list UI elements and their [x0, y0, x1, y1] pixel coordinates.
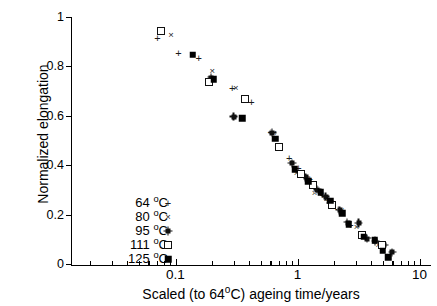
legend-marker: + — [160, 196, 176, 210]
marker-star-icon — [166, 229, 171, 234]
marker-filled-square-icon — [239, 115, 246, 122]
x-tick-label: 10 — [412, 268, 427, 282]
marker-plus-icon: + — [335, 205, 341, 213]
marker-star-icon — [323, 194, 328, 199]
marker-star-icon — [231, 114, 236, 119]
x-tick-minor — [371, 261, 372, 265]
marker-cross-icon: × — [271, 129, 277, 137]
x-tick-label: 1 — [294, 268, 302, 282]
x-tick-minor — [356, 261, 357, 265]
y-tick — [66, 17, 71, 18]
marker-star-icon — [209, 75, 214, 80]
marker-star-icon — [270, 130, 275, 135]
x-tick-minor — [261, 261, 262, 265]
marker-filled-square-icon — [360, 233, 367, 240]
y-tick-label: 0 — [57, 258, 64, 271]
marker-star-icon — [303, 175, 308, 180]
x-tick-minor — [292, 261, 293, 265]
marker-star-icon — [382, 243, 387, 248]
marker-plus-icon: + — [326, 196, 332, 204]
marker-star-icon — [356, 221, 361, 226]
x-tick-minor — [212, 261, 213, 265]
chart-legend: 64 oC+80 oC×95 oC111 oC125 oC — [88, 196, 168, 266]
marker-star-icon — [345, 220, 350, 225]
degree-symbol: o — [153, 194, 158, 204]
legend-marker — [160, 238, 176, 252]
marker-star-icon — [315, 187, 320, 192]
marker-plus-icon: + — [315, 185, 321, 193]
marker-open-square-icon — [275, 143, 283, 151]
marker-star-icon — [337, 208, 342, 213]
marker-plus-icon: + — [165, 199, 171, 207]
x-tick-minor — [334, 261, 335, 265]
y-tick — [66, 215, 71, 216]
legend-marker — [160, 252, 176, 266]
x-tick-minor — [414, 261, 415, 265]
y-tick — [66, 264, 71, 265]
marker-filled-square-icon — [327, 197, 334, 204]
marker-star-icon — [390, 250, 395, 255]
marker-filled-square-icon — [379, 248, 386, 255]
legend-marker: × — [160, 210, 176, 224]
y-axis-line — [71, 17, 72, 265]
marker-star-icon — [373, 239, 378, 244]
x-tick-minor — [383, 261, 384, 265]
x-tick-minor — [286, 261, 287, 265]
y-tick-label: 1 — [57, 11, 64, 24]
marker-plus-icon: + — [154, 34, 160, 42]
x-tick-label: 0.1 — [166, 268, 185, 282]
marker-cross-icon: × — [354, 223, 360, 231]
chart-figure: 00.20.40.60.81 0.1110 Normalized elongat… — [0, 0, 437, 306]
marker-filled-square-icon — [210, 76, 217, 83]
marker-cross-icon: × — [389, 247, 395, 255]
marker-cross-icon: × — [294, 169, 300, 177]
y-tick — [66, 116, 71, 117]
marker-star-icon — [289, 161, 294, 166]
marker-open-square-icon — [164, 241, 172, 249]
degree-symbol: o — [153, 222, 158, 232]
y-tick — [66, 165, 71, 166]
marker-filled-square-icon — [291, 166, 298, 173]
marker-open-square-icon — [378, 241, 386, 249]
marker-cross-icon: × — [233, 84, 239, 92]
marker-filled-square-icon — [272, 135, 279, 142]
marker-star-icon — [328, 201, 333, 206]
x-tick-minor — [234, 261, 235, 265]
legend-entry: 125 oC — [88, 252, 168, 266]
marker-cross-icon: × — [363, 233, 369, 241]
degree-symbol: o — [153, 250, 158, 260]
marker-cross-icon: × — [330, 202, 336, 210]
x-tick-major — [420, 259, 421, 265]
marker-filled-square-icon — [165, 256, 172, 263]
x-tick-minor — [270, 261, 271, 265]
marker-cross-icon: × — [376, 241, 382, 249]
x-tick-minor — [408, 261, 409, 265]
x-axis-title-pre: Scaled (to 64 — [142, 286, 225, 302]
marker-cross-icon: × — [323, 195, 329, 203]
marker-plus-icon: + — [286, 154, 292, 162]
marker-open-square-icon — [328, 201, 336, 209]
marker-plus-icon: + — [320, 191, 326, 199]
marker-filled-square-icon — [345, 221, 352, 228]
marker-cross-icon: × — [168, 31, 174, 39]
marker-plus-icon: + — [295, 164, 301, 172]
marker-cross-icon: × — [339, 206, 345, 214]
marker-filled-square-icon — [339, 210, 346, 217]
legend-marker — [160, 224, 176, 238]
x-tick-minor — [249, 261, 250, 265]
x-tick-minor — [279, 261, 280, 265]
marker-open-square-icon — [157, 27, 165, 35]
marker-cross-icon: × — [312, 189, 318, 197]
x-axis-title-post: C) ageing time/years — [230, 286, 359, 302]
marker-open-square-icon — [309, 181, 317, 189]
marker-open-square-icon — [297, 170, 305, 178]
marker-filled-square-icon — [189, 51, 196, 58]
y-tick — [66, 66, 71, 67]
degree-symbol: o — [153, 236, 158, 246]
marker-plus-icon: + — [268, 128, 274, 136]
x-axis-title: Scaled (to 64oC) ageing time/years — [71, 286, 431, 302]
marker-filled-square-icon — [305, 178, 312, 185]
marker-plus-icon: + — [175, 49, 181, 57]
marker-open-square-icon — [241, 95, 249, 103]
marker-plus-icon: + — [307, 175, 313, 183]
